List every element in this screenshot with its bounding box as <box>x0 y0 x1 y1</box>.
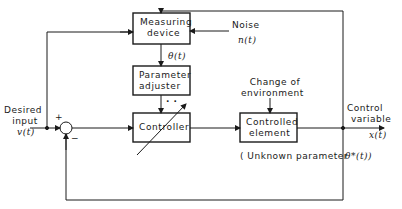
unknown-param-label: ( Unknown parameter <box>240 151 348 162</box>
measuring-device-line1: Measuring <box>140 17 192 28</box>
measuring-device-line2: device <box>140 28 192 39</box>
control-line2: variable <box>347 114 391 125</box>
desired-symbol: v(t) <box>4 127 42 138</box>
theta-label: θ(t) <box>168 51 186 62</box>
control-variable-label: Control variable <box>347 103 391 125</box>
environment-label: Change of environment <box>246 77 304 99</box>
desired-input-label: Desired input v(t) <box>4 105 42 138</box>
control-symbol: x(t) <box>369 130 387 141</box>
minus-sign: − <box>71 133 79 144</box>
plus-sign: + <box>55 112 63 123</box>
parameter-adjuster-line2: adjuster <box>139 81 191 92</box>
parameter-adjuster-label: Parameter adjuster <box>139 70 191 92</box>
controller-label: Controller <box>139 122 189 133</box>
unknown-param-symbol: θ*(t)) <box>345 151 372 162</box>
noise-label: Noise <box>232 20 259 31</box>
environment-line2: environment <box>241 88 304 99</box>
diagram-lines <box>0 0 402 209</box>
environment-line1: Change of <box>246 77 304 88</box>
dots-label: · · <box>166 96 177 107</box>
control-line1: Control <box>347 103 391 114</box>
controlled-element-line2: element <box>246 128 298 139</box>
measuring-device-label: Measuring device <box>140 17 192 39</box>
noise-symbol: n(t) <box>238 35 256 46</box>
desired-line1: Desired <box>4 105 42 116</box>
controlled-element-label: Controlled element <box>246 117 298 139</box>
desired-line2: input <box>4 116 42 127</box>
parameter-adjuster-line1: Parameter <box>139 70 191 81</box>
controlled-element-line1: Controlled <box>246 117 298 128</box>
